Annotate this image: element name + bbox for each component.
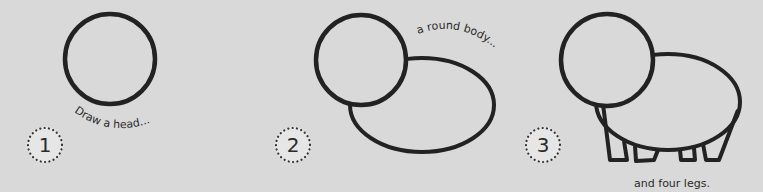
- head-circle: [561, 14, 653, 106]
- step-2-badge: 2: [275, 127, 311, 163]
- step-1-panel: Draw a head... 1: [27, 14, 155, 163]
- step-3-number: 3: [537, 133, 550, 157]
- step-2-caption: a round body...: [415, 19, 501, 50]
- step-3-badge: 3: [525, 127, 561, 163]
- step-2-panel: a round body... 2: [275, 15, 501, 163]
- step-1-number: 1: [39, 133, 52, 157]
- step-2-number: 2: [287, 133, 300, 157]
- step-1-caption: Draw a head...: [72, 104, 151, 131]
- step-3-panel: and four legs. 3: [525, 14, 740, 190]
- step-1-badge: 1: [27, 127, 63, 163]
- legs: [603, 104, 738, 161]
- head-circle: [65, 14, 155, 104]
- step-3-caption: and four legs.: [634, 177, 710, 190]
- head-circle: [316, 15, 406, 105]
- drawing-tutorial: Draw a head... 1 a round body... 2: [0, 0, 763, 192]
